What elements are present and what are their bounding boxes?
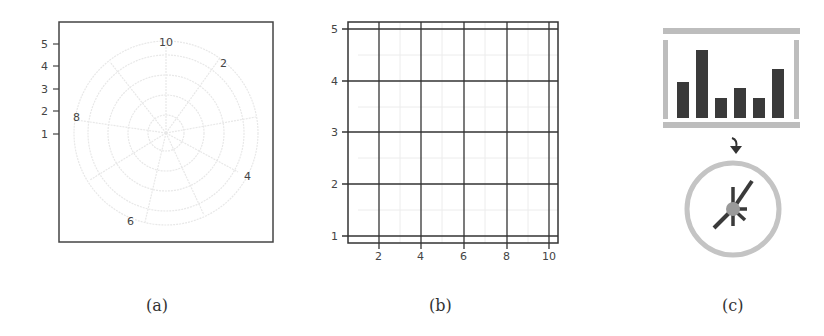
panel-caption: (c) bbox=[722, 296, 743, 315]
panel-caption: (a) bbox=[146, 296, 168, 315]
x-tick-label: 8 bbox=[503, 251, 510, 262]
angular-label: 2 bbox=[220, 58, 227, 69]
y-tick-label: 2 bbox=[331, 179, 338, 190]
panel-c-transform-diagram: (c) bbox=[600, 0, 824, 336]
x-tick-label: 6 bbox=[460, 251, 467, 262]
angular-label: 4 bbox=[244, 171, 251, 182]
angular-label: 10 bbox=[159, 37, 173, 48]
panel-a-polar-grid: 5 4 3 2 1 10 2 4 6 8 (a) bbox=[0, 0, 300, 336]
x-tick-label: 4 bbox=[417, 251, 424, 262]
y-tick-label: 3 bbox=[41, 84, 48, 95]
y-tick-label: 1 bbox=[41, 129, 48, 140]
y-tick-label: 2 bbox=[41, 106, 48, 117]
y-tick-label: 5 bbox=[41, 39, 48, 50]
polar-icon bbox=[687, 163, 779, 255]
curved-arrow-down-icon bbox=[730, 138, 742, 154]
angular-label: 8 bbox=[73, 112, 80, 123]
bar-chart-icon bbox=[663, 28, 800, 128]
y-tick-label: 4 bbox=[41, 61, 48, 72]
transform-diagram-graphic bbox=[600, 0, 824, 270]
x-tick-label: 10 bbox=[542, 251, 556, 262]
y-tick-label: 4 bbox=[331, 76, 338, 87]
x-tick-label: 2 bbox=[375, 251, 382, 262]
panel-caption: (b) bbox=[429, 296, 452, 315]
cartesian-grid-graphic bbox=[300, 0, 600, 260]
y-tick-label: 3 bbox=[331, 127, 338, 138]
angular-label: 6 bbox=[127, 216, 134, 227]
y-tick-label: 1 bbox=[331, 231, 338, 242]
y-tick-label: 5 bbox=[331, 24, 338, 35]
panel-b-cartesian-grid: 5 4 3 2 1 2 4 6 8 10 (b) bbox=[300, 0, 600, 336]
